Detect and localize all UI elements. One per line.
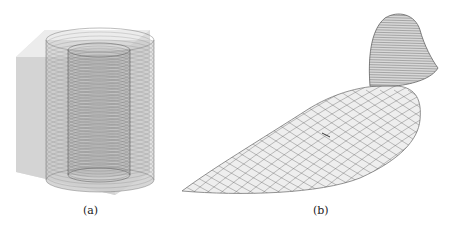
- figure-panel-b: [170, 0, 452, 200]
- cube-cylinder-illustration: [0, 0, 165, 200]
- caption-a: (a): [83, 204, 98, 217]
- figure-panel-a: [0, 0, 165, 200]
- caption-b: (b): [313, 204, 329, 217]
- bird-mesh-illustration: [170, 0, 452, 200]
